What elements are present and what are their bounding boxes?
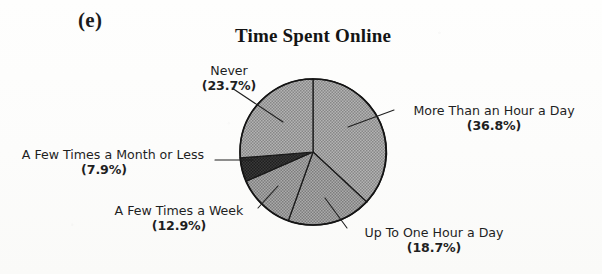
pie-label-more-than-an-hour-a-day-percent: (36.8%) [396, 119, 592, 134]
pie-label-up-to-one-hour-a-day: Up To One Hour a Day (18.7%) [348, 226, 520, 255]
pie-label-up-to-one-hour-a-day-percent: (18.7%) [348, 241, 520, 256]
pie-label-up-to-one-hour-a-day-text: Up To One Hour a Day [348, 226, 520, 241]
pie-label-a-few-times-a-month-or-less: A Few Times a Month or Less (7.9%) [6, 148, 220, 177]
pie-label-a-few-times-a-week-text: A Few Times a Week [96, 204, 262, 219]
pie-label-a-few-times-a-month-or-less-percent: (7.9%) [0, 163, 220, 178]
figure-panel: (e) Time Spent Online [0, 0, 602, 274]
pie-label-never-percent: (23.7%) [183, 79, 275, 94]
pie-label-more-than-an-hour-a-day-text: More Than an Hour a Day [396, 104, 592, 119]
pie-label-a-few-times-a-week: A Few Times a Week (12.9%) [96, 204, 262, 233]
pie-label-a-few-times-a-week-percent: (12.9%) [96, 219, 262, 234]
pie-label-a-few-times-a-month-or-less-text: A Few Times a Month or Less [6, 148, 220, 163]
pie-label-never-text: Never [183, 64, 275, 79]
pie-label-more-than-an-hour-a-day: More Than an Hour a Day (36.8%) [396, 104, 592, 133]
pie-label-never: Never (23.7%) [183, 64, 275, 93]
